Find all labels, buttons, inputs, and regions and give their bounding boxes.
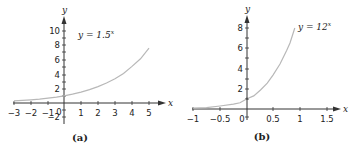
x-tick-label: 3	[112, 108, 117, 118]
y-axis-arrow-icon	[245, 15, 250, 23]
chart-a: −3 −2 −1 0 1 2 3 4 5 −2 2 4 6 8 10 x y y…	[8, 5, 173, 143]
y-tick-label: 2	[55, 84, 60, 94]
x-tick-label: 1.5	[320, 114, 334, 124]
y-tick-label: 8	[238, 23, 243, 33]
x-tick-label: −2	[25, 108, 38, 118]
curve-12-pow-x	[193, 28, 295, 108]
y-tick-label: 2	[238, 84, 243, 94]
y-tick-label: 6	[238, 43, 243, 53]
y-axis-label: y	[244, 4, 251, 14]
panel-label-a: (a)	[72, 132, 88, 143]
y-axis-label: y	[61, 5, 68, 15]
x-tick-label: −0.5	[210, 114, 231, 124]
x-tick-label: 0	[239, 114, 244, 124]
y-intercept-marker	[246, 98, 248, 100]
x-tick-label: −3	[8, 108, 21, 118]
curve-annotation-b: y = 12x	[297, 20, 332, 32]
panel-label-b: (b)	[254, 131, 270, 142]
x-tick-label: 1	[78, 108, 83, 118]
curve-1-5-pow-x	[14, 48, 149, 101]
x-axis-arrow-icon	[158, 101, 166, 106]
chart-b: −1 −0.5 0 0.5 1 1.5 2 4 6 8 x y y = 12x …	[187, 4, 348, 142]
x-tick-label: 0.5	[266, 114, 280, 124]
x-axis-arrow-icon	[333, 107, 341, 112]
y-tick-label: 4	[238, 64, 243, 74]
y-tick-label: 4	[55, 70, 60, 80]
x-tick-label: 4	[129, 108, 134, 118]
x-tick-label: 1	[297, 114, 302, 124]
x-tick-label: −1	[187, 114, 200, 124]
y-axis-arrow-icon	[62, 16, 67, 24]
y-tick-label: 8	[55, 40, 60, 50]
y-tick-label: 6	[55, 55, 60, 65]
figure: −3 −2 −1 0 1 2 3 4 5 −2 2 4 6 8 10 x y y…	[0, 0, 350, 154]
curve-annotation-a: y = 1.5x	[77, 28, 115, 40]
x-axis-label: x	[343, 104, 348, 114]
y-tick-label: 10	[49, 26, 60, 36]
x-tick-label: 2	[95, 108, 100, 118]
x-axis-label: x	[168, 98, 173, 108]
y-tick-label: −2	[47, 112, 60, 122]
x-tick-label: 5	[146, 108, 151, 118]
